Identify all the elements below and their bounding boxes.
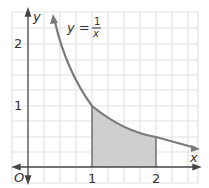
tick-label-x2: 2 <box>152 171 160 186</box>
origin-label: O <box>14 170 24 185</box>
function-label: y = 1 x <box>66 16 101 39</box>
tick-label-y2: 2 <box>14 36 22 51</box>
function-label-denominator: x <box>92 28 99 39</box>
curve-arrow-top <box>50 14 58 24</box>
function-label-lhs: y = <box>66 20 90 35</box>
graph-canvas: y x O 2 1 1 2 y = 1 x <box>0 0 209 188</box>
y-axis-label: y <box>32 9 41 24</box>
x-axis-label: x <box>189 150 198 165</box>
y-axis <box>26 9 31 183</box>
tick-label-x1: 1 <box>88 171 96 186</box>
tick-label-y1: 1 <box>14 98 22 113</box>
function-label-numerator: 1 <box>94 16 100 27</box>
